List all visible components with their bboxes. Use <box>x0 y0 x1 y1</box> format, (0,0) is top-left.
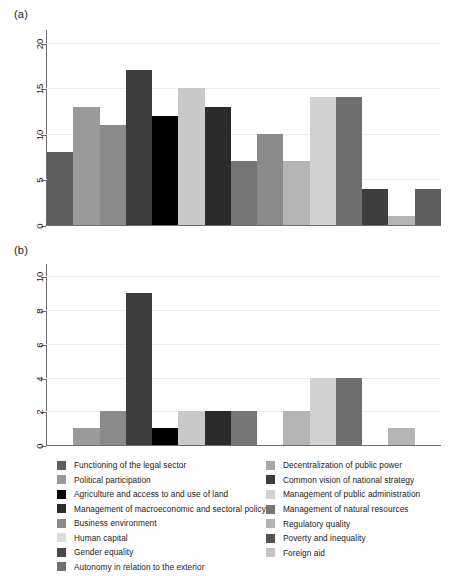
legend-label: Political participation <box>74 475 151 485</box>
bar <box>231 161 257 225</box>
legend-item: Human capital <box>57 531 266 546</box>
bar-slot <box>100 30 126 225</box>
bar <box>152 116 178 225</box>
legend-label: Management of macroeconomic and sectoral… <box>74 504 266 514</box>
legend-item: Management of natural resources <box>266 502 449 517</box>
bar-slot <box>388 264 414 445</box>
bar-series-b <box>47 264 441 445</box>
legend-swatch-icon <box>266 475 275 484</box>
legend-item: Management of macroeconomic and sectoral… <box>57 502 266 517</box>
legend-label: Management of natural resources <box>283 504 409 514</box>
bar-slot <box>152 30 178 225</box>
legend-item: Management of public administration <box>266 487 449 502</box>
bar-slot <box>231 30 257 225</box>
bar <box>336 378 362 445</box>
plot-area-a: 05101520 <box>46 30 441 226</box>
legend-item: Business environment <box>57 516 266 531</box>
legend-item: Foreign aid <box>266 546 449 561</box>
bar <box>388 428 414 445</box>
bar-slot <box>257 264 283 445</box>
bar-slot <box>362 30 388 225</box>
bar <box>283 411 309 445</box>
bar-slot <box>126 264 152 445</box>
legend-label: Autonomy in relation to the exterior <box>74 562 204 572</box>
panel-a-label: (a) <box>14 8 28 20</box>
legend-swatch-icon <box>57 461 66 470</box>
bar <box>283 161 309 225</box>
legend-swatch-icon <box>57 548 66 557</box>
legend-item: Regulatory quality <box>266 516 449 531</box>
legend-item: Common vision of national strategy <box>266 473 449 488</box>
bar <box>415 189 441 225</box>
bar-slot <box>73 264 99 445</box>
legend-label: Decentralization of public power <box>283 460 402 470</box>
legend-label: Management of public administration <box>283 489 420 499</box>
bar-slot <box>47 30 73 225</box>
figure-root: (a) 05101520 (b) 0246810 Functioning of … <box>0 0 449 576</box>
bar-slot <box>152 264 178 445</box>
bar-slot <box>257 30 283 225</box>
bar-slot <box>283 264 309 445</box>
legend-item: Agriculture and access to and use of lan… <box>57 487 266 502</box>
legend-swatch-icon <box>57 533 66 542</box>
legend-label: Common vision of national strategy <box>283 475 414 485</box>
bar <box>205 107 231 226</box>
bar <box>362 189 388 225</box>
bar-slot <box>178 30 204 225</box>
legend-item: Functioning of the legal sector <box>57 458 266 473</box>
bar-slot <box>388 30 414 225</box>
bar <box>152 428 178 445</box>
bar <box>336 97 362 225</box>
legend-swatch-icon <box>57 490 66 499</box>
legend-item: Poverty and inequality <box>266 531 449 546</box>
bar-slot <box>415 264 441 445</box>
bar <box>126 70 152 225</box>
bar-slot <box>126 30 152 225</box>
bar-slot <box>178 264 204 445</box>
bar-slot <box>310 30 336 225</box>
bar <box>388 216 414 225</box>
bar-slot <box>73 30 99 225</box>
legend-label: Agriculture and access to and use of lan… <box>74 489 228 499</box>
panel-b: (b) 0246810 <box>0 244 449 456</box>
bar-series-a <box>47 30 441 225</box>
panel-b-label: (b) <box>14 244 28 256</box>
legend-label: Human capital <box>74 533 128 543</box>
legend-swatch-icon <box>266 461 275 470</box>
bar <box>310 97 336 225</box>
bar-slot <box>100 264 126 445</box>
legend-label: Foreign aid <box>283 548 325 558</box>
legend-swatch-icon <box>266 534 275 543</box>
bar-slot <box>283 30 309 225</box>
legend-item: Decentralization of public power <box>266 458 449 473</box>
bar <box>257 134 283 225</box>
legend-label: Functioning of the legal sector <box>74 460 186 470</box>
legend-column-left: Functioning of the legal sectorPolitical… <box>57 458 266 574</box>
legend-swatch-icon <box>57 504 66 513</box>
bar <box>100 411 126 445</box>
x-axis-b <box>46 445 441 446</box>
legend-swatch-icon <box>57 562 66 571</box>
plot-area-b: 0246810 <box>46 264 441 446</box>
bar <box>205 411 231 445</box>
bar-slot <box>336 30 362 225</box>
legend-swatch-icon <box>266 519 275 528</box>
legend-column-right: Decentralization of public powerCommon v… <box>266 458 449 574</box>
bar <box>231 411 257 445</box>
bar <box>310 378 336 445</box>
bar-slot <box>205 30 231 225</box>
bar <box>178 88 204 225</box>
legend-item: Autonomy in relation to the exterior <box>57 560 266 575</box>
bar <box>47 152 73 225</box>
legend: Functioning of the legal sectorPolitical… <box>0 458 449 574</box>
bar <box>178 411 204 445</box>
legend-swatch-icon <box>57 475 66 484</box>
legend-label: Poverty and inequality <box>283 533 366 543</box>
bar-slot <box>310 264 336 445</box>
bar-slot <box>231 264 257 445</box>
bar-slot <box>415 30 441 225</box>
bar <box>73 107 99 226</box>
bar-slot <box>205 264 231 445</box>
legend-label: Gender equality <box>74 547 133 557</box>
legend-label: Regulatory quality <box>283 519 350 529</box>
